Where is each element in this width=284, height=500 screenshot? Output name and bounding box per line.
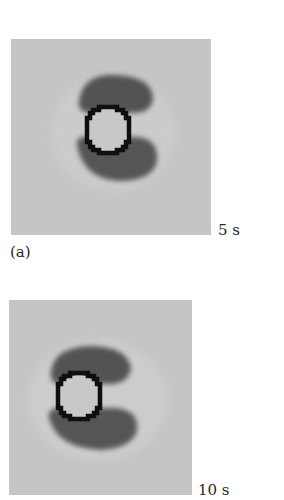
time-label-10s: 10 s: [198, 482, 230, 498]
flow-field-image: [9, 300, 192, 495]
simulation-panel-5s: [11, 39, 211, 235]
simulation-panel-10s: [9, 300, 192, 495]
time-label-5s: 5 s: [218, 222, 240, 238]
subfigure-label: (a): [10, 243, 31, 261]
flow-field-image: [11, 39, 211, 235]
